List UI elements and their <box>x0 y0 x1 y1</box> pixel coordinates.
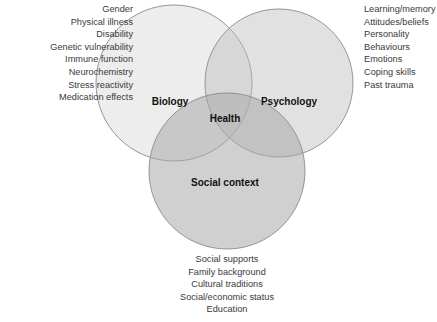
psychology-factor: Learning/memory <box>364 3 436 16</box>
psychology-factors-list: Learning/memory Attitudes/beliefs Person… <box>364 3 436 91</box>
biology-factor: Medication effects <box>50 91 133 104</box>
biology-factor: Genetic vulnerability <box>50 41 133 54</box>
biology-factor: Disability <box>50 28 133 41</box>
biology-factor: Gender <box>50 3 133 16</box>
social-factor: Education <box>127 303 327 316</box>
social-context-label: Social context <box>191 177 259 188</box>
biology-factor: Immune function <box>50 53 133 66</box>
psychology-factor: Past trauma <box>364 79 436 92</box>
biology-factor: Neurochemistry <box>50 66 133 79</box>
psychology-factor: Personality <box>364 28 436 41</box>
psychology-factor: Emotions <box>364 53 436 66</box>
psychology-factor: Coping skills <box>364 66 436 79</box>
social-factors-list: Social supports Family background Cultur… <box>127 253 327 316</box>
biology-label: Biology <box>152 96 189 107</box>
psychology-label: Psychology <box>261 96 318 107</box>
psychology-factor: Attitudes/beliefs <box>364 16 436 29</box>
psychology-factor: Behaviours <box>364 41 436 54</box>
biology-factors-list: Gender Physical illness Disability Genet… <box>50 3 133 104</box>
social-factor: Social supports <box>127 253 327 266</box>
social-factor: Family background <box>127 266 327 279</box>
biology-factor: Physical illness <box>50 16 133 29</box>
health-label: Health <box>210 113 241 124</box>
social-factor: Cultural traditions <box>127 278 327 291</box>
social-factor: Social/economic status <box>127 291 327 304</box>
biology-factor: Stress reactivity <box>50 79 133 92</box>
